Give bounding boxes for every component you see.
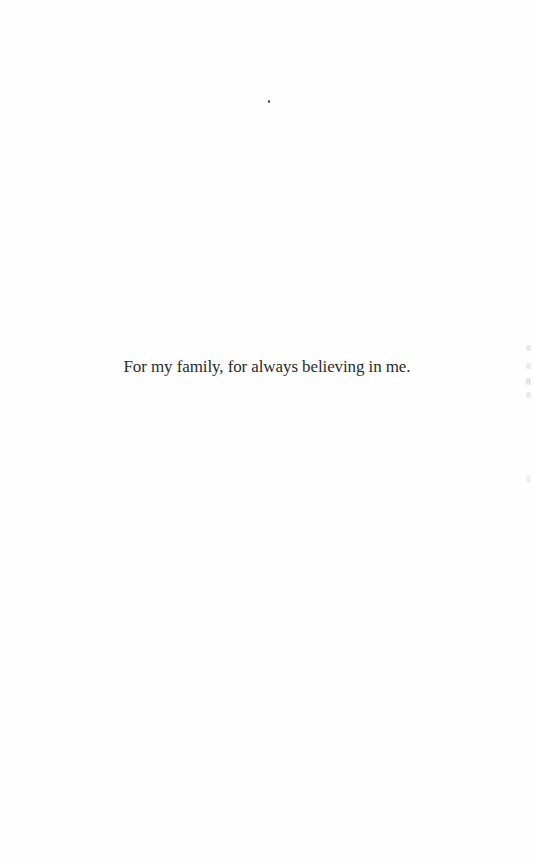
bleed-through-mark [526, 345, 531, 351]
bleed-through-mark [526, 392, 531, 398]
page-mark [268, 100, 270, 103]
book-page: For my family, for always believing in m… [0, 0, 533, 864]
bleed-through-mark [526, 363, 531, 369]
bleed-through-mark [526, 475, 531, 483]
dedication-text: For my family, for always believing in m… [123, 356, 411, 378]
dedication: For my family, for always believing in m… [0, 356, 533, 378]
bleed-through-mark [526, 378, 531, 385]
